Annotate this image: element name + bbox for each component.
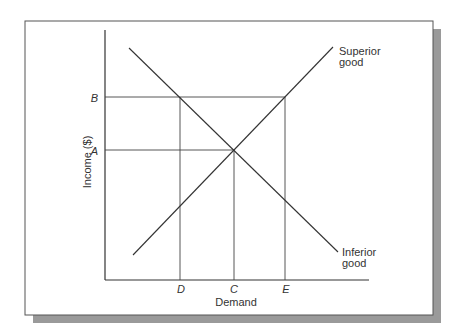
x-tick-E: E bbox=[282, 283, 290, 295]
inferior-label-2: good bbox=[342, 257, 366, 269]
y-tick-B: B bbox=[91, 92, 98, 104]
superior-label-2: good bbox=[339, 56, 363, 68]
y-axis-label: Income ($) bbox=[81, 136, 93, 189]
x-tick-C: C bbox=[230, 283, 238, 295]
income-demand-diagram: B A D C E Demand Income ($) Superior goo… bbox=[0, 0, 458, 335]
x-tick-D: D bbox=[177, 283, 185, 295]
x-axis-label: Demand bbox=[215, 296, 257, 308]
